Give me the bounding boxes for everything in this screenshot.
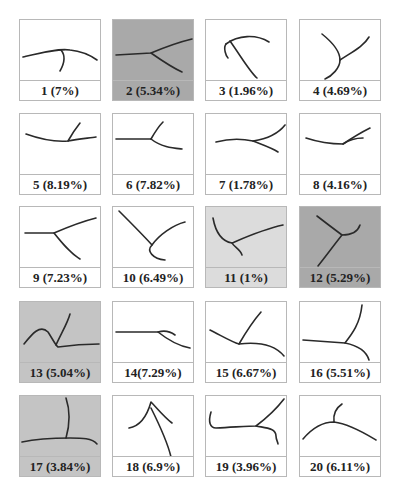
grid-cell-8: 8 (4.16%) — [299, 113, 381, 195]
grid-cell-6: 6 (7.82%) — [112, 113, 194, 195]
grid-cell-18: 18 (6.9%) — [112, 395, 194, 477]
grid-cell-9: 9 (7.23%) — [19, 206, 101, 288]
cell-label: 4 (4.69%) — [300, 80, 380, 100]
grid-cell-11: 11 (1%) — [205, 206, 287, 288]
cell-label: 10 (6.49%) — [113, 267, 193, 287]
branch-sketch-icon — [300, 114, 380, 175]
cell-label: 17 (3.84%) — [20, 456, 100, 476]
cell-label: 6 (7.82%) — [113, 174, 193, 194]
cell-label: 5 (8.19%) — [20, 174, 100, 194]
grid-cell-15: 15 (6.67%) — [205, 301, 287, 383]
branch-sketch-icon — [206, 114, 286, 175]
cell-label: 20 (6.11%) — [300, 456, 380, 476]
branch-sketch-icon — [113, 302, 193, 363]
branch-sketch-icon — [206, 20, 286, 81]
branch-sketch-icon — [300, 302, 380, 363]
branch-sketch-icon — [206, 396, 286, 457]
cell-label: 15 (6.67%) — [206, 362, 286, 382]
branch-sketch-icon — [113, 20, 193, 81]
cell-label: 11 (1%) — [206, 267, 286, 287]
branch-sketch-icon — [113, 396, 193, 457]
branch-sketch-icon — [20, 302, 100, 363]
grid-cell-7: 7 (1.78%) — [205, 113, 287, 195]
grid-cell-3: 3 (1.96%) — [205, 19, 287, 101]
cell-label: 16 (5.51%) — [300, 362, 380, 382]
branch-sketch-icon — [300, 20, 380, 81]
grid-cell-17: 17 (3.84%) — [19, 395, 101, 477]
sketch-grid: 1 (7%) 2 (5.34%) 3 (1.96%) 4 (4.69%) 5 (… — [0, 0, 398, 491]
grid-cell-20: 20 (6.11%) — [299, 395, 381, 477]
cell-label: 1 (7%) — [20, 80, 100, 100]
cell-label: 13 (5.04%) — [20, 362, 100, 382]
cell-label: 2 (5.34%) — [113, 80, 193, 100]
branch-sketch-icon — [206, 302, 286, 363]
grid-cell-10: 10 (6.49%) — [112, 206, 194, 288]
grid-cell-12: 12 (5.29%) — [299, 206, 381, 288]
grid-cell-19: 19 (3.96%) — [205, 395, 287, 477]
grid-cell-1: 1 (7%) — [19, 19, 101, 101]
cell-label: 8 (4.16%) — [300, 174, 380, 194]
branch-sketch-icon — [300, 207, 380, 268]
branch-sketch-icon — [20, 20, 100, 81]
grid-cell-14: 14(7.29%) — [112, 301, 194, 383]
grid-cell-2: 2 (5.34%) — [112, 19, 194, 101]
cell-label: 7 (1.78%) — [206, 174, 286, 194]
grid-cell-16: 16 (5.51%) — [299, 301, 381, 383]
branch-sketch-icon — [20, 114, 100, 175]
branch-sketch-icon — [300, 396, 380, 457]
branch-sketch-icon — [113, 114, 193, 175]
grid-cell-13: 13 (5.04%) — [19, 301, 101, 383]
cell-label: 14(7.29%) — [113, 362, 193, 382]
cell-label: 18 (6.9%) — [113, 456, 193, 476]
cell-label: 9 (7.23%) — [20, 267, 100, 287]
grid-cell-4: 4 (4.69%) — [299, 19, 381, 101]
branch-sketch-icon — [20, 207, 100, 268]
cell-label: 3 (1.96%) — [206, 80, 286, 100]
branch-sketch-icon — [206, 207, 286, 268]
cell-label: 19 (3.96%) — [206, 456, 286, 476]
cell-label: 12 (5.29%) — [300, 267, 380, 287]
grid-cell-5: 5 (8.19%) — [19, 113, 101, 195]
branch-sketch-icon — [20, 396, 100, 457]
branch-sketch-icon — [113, 207, 193, 268]
